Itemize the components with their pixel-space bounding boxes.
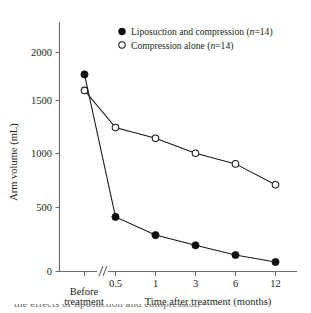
y-axis-title: Arm volume (mL) — [8, 123, 20, 201]
data-point-compression-alone-6 — [232, 161, 239, 168]
data-point-liposuction-1 — [152, 232, 159, 239]
y-tick-label-1500: 1500 — [31, 95, 52, 106]
y-axis-ticks — [56, 53, 60, 272]
legend-label-compression: Compression alone — [131, 40, 205, 51]
series-line-liposuction-and-compression — [85, 74, 276, 262]
arm-volume-line-chart: 0 500 1000 1500 2000 Arm volume (mL) 0.5… — [0, 0, 311, 313]
data-point-liposuction-before — [81, 71, 88, 78]
data-point-liposuction-0.5 — [112, 213, 119, 220]
series-liposuction-and-compression — [81, 71, 279, 266]
y-tick-label-2000: 2000 — [31, 47, 52, 58]
legend-label-liposuction: Liposuction and compression — [131, 26, 244, 37]
data-point-compression-alone-before — [81, 87, 88, 94]
y-tick-label-500: 500 — [36, 202, 52, 213]
axis-break-icon — [97, 266, 108, 276]
legend-marker-filled-circle-icon — [119, 28, 126, 35]
caption-partial-cropped: the effects of liposuction and compressi… — [0, 304, 311, 313]
x-axis-ticks — [85, 272, 276, 277]
x-tick-label-6: 6 — [233, 278, 238, 289]
data-point-compression-alone-1 — [152, 135, 159, 142]
chart-figure: 0 500 1000 1500 2000 Arm volume (mL) 0.5… — [0, 0, 311, 313]
legend-item-liposuction-and-compression: Liposuction and compression (n=14) — [131, 26, 273, 38]
legend-item-compression-alone: Compression alone (n=14) — [131, 40, 233, 52]
data-point-liposuction-12 — [272, 258, 279, 265]
data-point-liposuction-3 — [192, 242, 199, 249]
x-tick-label-0.5: 0.5 — [109, 278, 122, 289]
legend-n-value-liposuction: =14 — [254, 26, 269, 37]
x-axis-tick-labels: 0.5 1 3 6 12 — [109, 278, 281, 289]
y-tick-label-1000: 1000 — [31, 148, 52, 159]
x-tick-label-1: 1 — [153, 278, 158, 289]
chart-legend: Liposuction and compression (n=14) Compr… — [119, 26, 273, 52]
data-point-compression-alone-12 — [272, 181, 279, 188]
legend-n-value-compression: =14 — [215, 40, 230, 51]
legend-marker-open-circle-icon — [119, 42, 125, 48]
series-line-compression-alone — [85, 90, 276, 184]
caption-partial-text: the effects of liposuction and compressi… — [14, 304, 311, 309]
y-axis-tick-labels: 0 500 1000 1500 2000 — [31, 47, 52, 277]
series-compression-alone — [81, 87, 279, 188]
x-tick-label-12: 12 — [270, 278, 281, 289]
data-point-compression-alone-0.5 — [112, 124, 119, 131]
data-point-liposuction-6 — [232, 251, 239, 258]
y-tick-label-0: 0 — [47, 266, 52, 277]
data-point-compression-alone-3 — [192, 150, 199, 157]
x-tick-label-3: 3 — [193, 278, 198, 289]
